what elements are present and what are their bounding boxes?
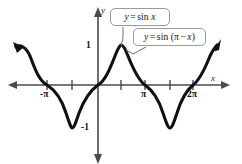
- y-tick-label-neg-one: -1: [81, 123, 89, 133]
- y-tick-label-one: 1: [86, 41, 91, 51]
- x-axis-right-arrowhead: [221, 81, 230, 89]
- callout1-arg: x: [151, 12, 155, 22]
- y-axis-bottom-arrowhead: [94, 154, 102, 164]
- y-axis-label: y: [101, 6, 105, 15]
- x-tick-label-neg-pi: -π: [40, 90, 48, 100]
- sin-pi-minus-x-callout: y = sin ( π − x ): [133, 28, 206, 46]
- sine-graph-figure: x y -π π 2π 1 -1 y = sin x y = sin ( π −…: [0, 0, 242, 164]
- callout2-function: sin: [157, 32, 168, 42]
- x-axis-label: x: [211, 74, 215, 83]
- callout1-equals: =: [129, 12, 137, 22]
- callout1-function: sin: [137, 12, 148, 22]
- x-tick-label-2pi: 2π: [187, 90, 197, 100]
- sine-curve: [13, 39, 221, 128]
- x-tick-label-pi: π: [141, 90, 146, 100]
- x-axis-left-arrowhead: [8, 81, 17, 89]
- sin-x-callout: y = sin x: [110, 8, 170, 26]
- callout2-equals: =: [148, 32, 156, 42]
- curve-right-arrowhead: [212, 39, 221, 52]
- callout2-close-paren: ): [192, 32, 195, 42]
